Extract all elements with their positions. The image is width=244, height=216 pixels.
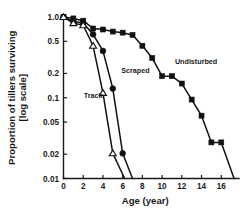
x-axis-title: Age (year) [122,195,169,206]
data-point-square [110,29,115,34]
data-point-square [209,140,214,145]
data-point-square [91,26,96,31]
x-tick-label: 4 [101,182,106,191]
x-tick-label: 0 [61,182,66,191]
data-point-circle [100,48,106,54]
y-tick-label: 0.5 [48,37,60,46]
y-tick-label: 1.0 [48,13,60,22]
y-tick-label: 0.2 [48,69,60,78]
x-tick-label: 6 [120,182,125,191]
x-tick-label: 2 [81,182,86,191]
y-axis-title-line2: [log scale] [17,74,28,121]
data-point-square [179,81,184,86]
series-label-undisturbed: Undisturbed [175,57,217,66]
chart-svg: 0246810121416 1.00.50.20.10.050.020.01 U… [0,0,244,216]
x-tick-label: 8 [140,182,145,191]
data-point-circle [110,86,116,92]
x-tick-label: 14 [197,182,207,191]
data-point-square [140,43,145,48]
series-label-track: Track [84,91,103,100]
data-point-square [100,27,105,32]
y-tick-label: 0.05 [43,118,59,127]
x-tick-label: 10 [158,182,168,191]
y-axis-title-line1: Proportion of tillers surviving [6,30,17,164]
y-tick-label: 0.01 [43,175,59,184]
series-label-scraped: Scraped [121,66,149,75]
data-point-square [130,32,135,37]
x-tick-label: 12 [177,182,187,191]
x-tick-label: 16 [217,182,227,191]
data-point-square [189,97,194,102]
data-point-circle [120,150,126,156]
y-tick-label: 0.1 [48,94,60,103]
data-point-square [150,56,155,61]
data-point-circle [90,31,96,37]
data-point-square [199,113,204,118]
data-point-square [169,74,174,79]
data-point-square [160,74,165,79]
data-point-square [120,30,125,35]
survivorship-chart: 0246810121416 1.00.50.20.10.050.020.01 U… [0,0,244,216]
data-point-square [219,140,224,145]
y-tick-label: 0.02 [43,150,59,159]
